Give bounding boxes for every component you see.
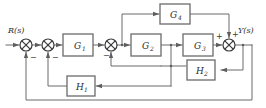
block-g1-label: G <box>74 41 81 51</box>
summing-junction-3[interactable] <box>105 39 117 51</box>
block-g3[interactable]: G 3 <box>183 34 213 56</box>
block-g3-subscript: 3 <box>202 45 206 52</box>
block-g2-subscript: 2 <box>149 45 154 52</box>
signal-lines <box>6 14 252 100</box>
block-h1-subscript: 1 <box>84 86 88 93</box>
block-g3-label: G <box>194 41 201 51</box>
sign-sum3-minus: − <box>103 51 110 60</box>
block-g2-label: G <box>142 41 149 51</box>
block-h2-subscript: 2 <box>203 70 208 77</box>
block-h1[interactable]: H 1 <box>67 76 95 96</box>
block-h2[interactable]: H 2 <box>187 60 215 80</box>
summing-junction-4[interactable] <box>223 39 235 51</box>
input-label: R(s) <box>7 26 24 35</box>
block-g1[interactable]: G 1 <box>63 34 93 56</box>
block-diagram-container: G 1 G 2 G 3 G 4 H 1 <box>0 0 266 108</box>
sign-sum2-minus: − <box>52 53 59 62</box>
output-label: Y(s) <box>238 26 254 35</box>
block-g2[interactable]: G 2 <box>131 34 161 56</box>
summing-junction-1[interactable] <box>20 39 32 51</box>
block-g1-subscript: 1 <box>82 45 86 52</box>
node-dot-inner <box>170 65 172 67</box>
blocks-group: G 1 G 2 G 3 G 4 H 1 <box>63 4 215 96</box>
sign-sum4-plus-left: + <box>216 32 223 41</box>
node-dot-a <box>121 44 123 46</box>
block-diagram-svg: G 1 G 2 G 3 G 4 H 1 <box>0 0 266 108</box>
block-g4-label: G <box>170 10 177 20</box>
block-h2-label: H <box>195 66 204 76</box>
summing-junction-2[interactable] <box>42 39 54 51</box>
block-g4[interactable]: G 4 <box>160 4 190 24</box>
node-dot-output <box>242 44 244 46</box>
block-h1-label: H <box>75 82 84 92</box>
node-dot-b <box>170 44 172 46</box>
sign-sum1-minus: − <box>30 53 37 62</box>
block-g4-subscript: 4 <box>177 14 182 21</box>
